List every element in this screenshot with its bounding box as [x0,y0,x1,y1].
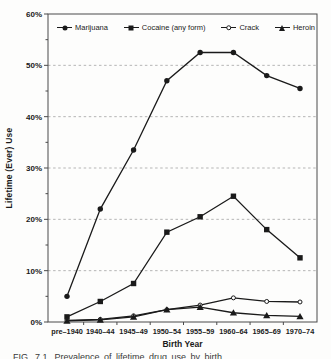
crack-marker-icon [221,24,236,32]
svg-text:0%: 0% [30,318,42,327]
svg-text:30%: 30% [26,164,42,173]
series-marijuana [64,50,302,299]
svg-text:20%: 20% [26,215,42,224]
x-axis: pre–19401940–441945–491950–541955–591960… [51,322,315,336]
legend-item-marijuana: Marijuana [57,23,108,32]
svg-text:1955–59: 1955–59 [186,327,214,336]
legend-label-crack: Crack [239,23,259,32]
chart-legend: Marijuana Cocaine (any form) Crack Heroi… [57,23,315,32]
legend-label-cocaine: Cocaine (any form) [142,23,206,32]
marijuana-marker-icon [57,24,72,32]
legend-item-cocaine: Cocaine (any form) [124,23,206,32]
svg-text:60%: 60% [26,10,42,19]
cocaine-marker-icon [124,24,139,32]
svg-text:40%: 40% [26,113,42,122]
y-axis-title: Lifetime (Ever) Use [4,128,14,209]
svg-text:1965–69: 1965–69 [253,327,281,336]
svg-text:50%: 50% [26,61,42,70]
figure-caption: FIG. 7.1. Prevalence of lifetime drug us… [13,352,331,359]
y-axis: 0%10%20%30%40%50%60% [26,10,48,327]
legend-item-heroin: Heroin [275,23,315,32]
svg-text:10%: 10% [26,267,42,276]
svg-text:1945–49: 1945–49 [119,327,147,336]
legend-label-heroin: Heroin [293,23,315,32]
legend-item-crack: Crack [221,23,259,32]
legend-label-marijuana: Marijuana [75,23,108,32]
figure-7-1: Marijuana Cocaine (any form) Crack Heroi… [0,0,331,359]
svg-text:1970–74: 1970–74 [286,327,315,336]
svg-text:1950–54: 1950–54 [153,327,182,336]
svg-text:pre–1940: pre–1940 [51,327,83,336]
chart-svg: 0%10%20%30%40%50%60%pre–19401940–441945–… [0,0,331,359]
svg-text:1960–64: 1960–64 [219,327,248,336]
heroin-marker-icon [275,24,290,32]
svg-text:1940–44: 1940–44 [86,327,115,336]
x-axis-title: Birth Year [48,339,317,349]
